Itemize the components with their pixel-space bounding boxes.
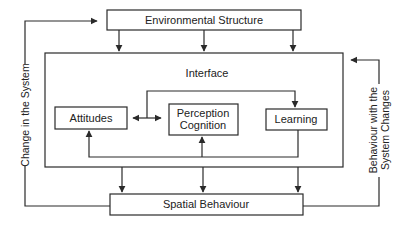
feedback-left-label: Change in the System (19, 63, 31, 167)
diagram-canvas: Environmental Structure Interface Attitu… (0, 0, 410, 227)
node-spatial-behaviour: Spatial Behaviour (110, 194, 303, 215)
attitudes-label: Attitudes (70, 112, 113, 124)
node-learning: Learning (266, 109, 327, 130)
learning-label: Learning (275, 113, 318, 125)
environmental-structure-label: Environmental Structure (145, 14, 263, 26)
feedback-right-label-line1: Behaviour with the (367, 87, 379, 174)
feedback-right-label-line2: System Changes (379, 90, 391, 170)
interface-label: Interface (186, 67, 229, 79)
cognition-label: Cognition (180, 119, 226, 131)
arrows-env-to-interface (119, 30, 293, 51)
arrows-interface-to-behaviour (122, 167, 298, 192)
node-attitudes: Attitudes (55, 107, 127, 129)
node-environmental-structure: Environmental Structure (107, 10, 301, 30)
node-perception-cognition: Perception Cognition (169, 104, 238, 135)
feedback-right: Behaviour with the System Changes (303, 60, 391, 206)
perception-label: Perception (177, 107, 230, 119)
spatial-behaviour-label: Spatial Behaviour (163, 198, 250, 210)
